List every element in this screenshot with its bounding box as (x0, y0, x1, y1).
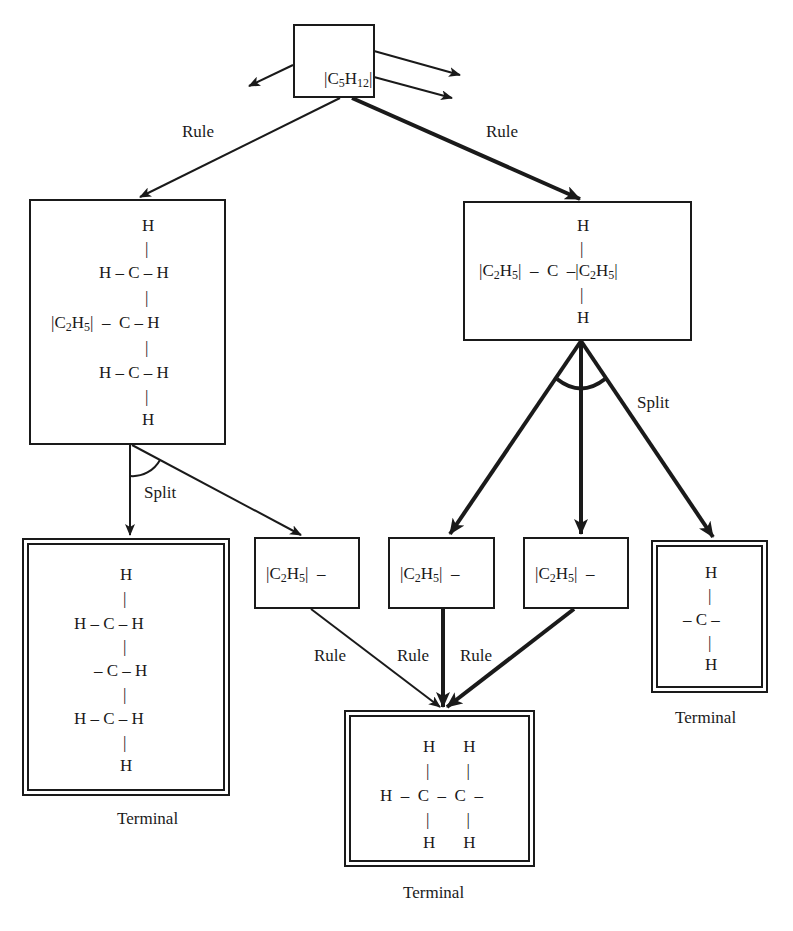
edge-label-split-right: Split (637, 394, 669, 411)
left-row-ch-c2h5: |C2H5| – C – H (51, 314, 160, 331)
node-right-expansion[interactable]: H | |C2H5| – C –|C2H5| | H (463, 201, 692, 341)
node-right-terminal[interactable]: H | – C – | H (651, 540, 768, 693)
c2h5-b-label: |C2H5| – (400, 565, 459, 582)
terminal-caption-bottom: Terminal (403, 884, 464, 901)
bond-v: | (145, 388, 148, 405)
bond-v: | (123, 638, 126, 655)
bond-v: | (123, 686, 126, 703)
left-row-ch2: H – C – H (99, 264, 169, 281)
right-row-main: |C2H5| – C –|C2H5| (479, 262, 618, 279)
bond-v: | (145, 289, 148, 306)
node-bottom-terminal[interactable]: HH || H – C – C – || HH (344, 710, 535, 867)
c2h5-a-label: |C2H5| – (266, 565, 325, 582)
edge-root-left (140, 98, 340, 197)
right-row-h-top: H (577, 217, 589, 234)
bond-v: | (708, 634, 711, 651)
left-row-h-top: H (142, 217, 154, 234)
node-c2h5-c[interactable]: |C2H5| – (523, 537, 629, 609)
bt-bond-bottom: || (426, 811, 470, 828)
rt-row-c: – C – (683, 611, 720, 628)
edge-label-rule-left: Rule (182, 123, 214, 140)
rt-h-top: H (705, 564, 717, 581)
edge-label-rule-a: Rule (314, 647, 346, 664)
node-c2h5-b[interactable]: |C2H5| – (388, 537, 495, 609)
bt-bond-top: || (426, 762, 470, 779)
bond-v: | (580, 286, 583, 303)
bond-v: | (145, 240, 148, 257)
lt-h-bottom: H (120, 757, 132, 774)
edge-root-right (352, 98, 580, 199)
right-row-h-bottom: H (577, 309, 589, 326)
edge-label-rule-right: Rule (486, 123, 518, 140)
terminal-caption-right: Terminal (675, 709, 736, 726)
edge-label-rule-c: Rule (460, 647, 492, 664)
edge-root-off-right-2 (374, 77, 452, 98)
node-c2h5-a[interactable]: |C2H5| – (254, 537, 360, 609)
node-left-terminal[interactable]: H | H – C – H | – C – H | H – C – H | H (22, 538, 230, 796)
and-arc-left (130, 460, 160, 476)
lt-row-ch2-bottom: H – C – H (74, 710, 144, 727)
edge-label-rule-b: Rule (397, 647, 429, 664)
bond-v: | (708, 587, 711, 604)
node-left-expansion[interactable]: H | H – C – H | |C2H5| – C – H | H – C –… (29, 199, 226, 445)
bond-v: | (123, 590, 126, 607)
lt-row-ch: – C – H (94, 662, 147, 679)
lt-row-ch2: H – C – H (74, 615, 144, 632)
root-formula: |C5H12| (307, 53, 372, 104)
edge-right-c2h5-b (450, 341, 581, 534)
terminal-caption-left: Terminal (117, 810, 178, 827)
left-row-h-bottom: H (142, 411, 154, 428)
c2h5-c-label: |C2H5| – (535, 565, 594, 582)
left-row-ch2-bottom: H – C – H (99, 364, 169, 381)
bt-h-bottom: HH (423, 834, 476, 851)
edge-root-off-left (249, 65, 293, 86)
rt-h-bottom: H (705, 656, 717, 673)
edge-root-off-right-1 (374, 51, 460, 75)
bond-v: | (145, 339, 148, 356)
bond-v: | (580, 240, 583, 257)
bt-h-top: HH (423, 738, 476, 755)
bt-row-main: H – C – C – (380, 787, 483, 804)
root-node[interactable]: |C5H12| (293, 24, 375, 98)
edge-right-right-terminal (581, 341, 713, 537)
lt-h-top: H (120, 566, 132, 583)
edge-label-split-left: Split (144, 484, 176, 501)
bond-v: | (123, 734, 126, 751)
